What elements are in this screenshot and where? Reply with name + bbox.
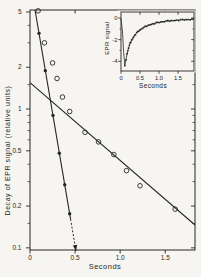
inset-data-square: [162, 21, 163, 22]
inset-data-square: [145, 25, 147, 27]
figure-scan: 5210.50.20.100.51.01.50-2-400.51.01.5 Se…: [0, 0, 201, 277]
inset-y-tick-label: -4: [112, 58, 118, 64]
inset-x-tick-label: 1.0: [155, 75, 163, 81]
inset-x-tick-label: 1.5: [174, 75, 182, 81]
inset-data-square: [132, 38, 133, 39]
inset-data-square: [170, 20, 172, 22]
x-tick-label: 0.5: [71, 254, 80, 261]
inset-x-axis-label: Seconds: [122, 82, 184, 89]
filled-circle-point: [68, 212, 71, 215]
inset-data-square: [178, 20, 180, 22]
inset-data-square: [160, 21, 162, 23]
filled-circle-point: [44, 69, 47, 72]
inset-data-square: [159, 22, 160, 23]
inset-data-square: [142, 28, 144, 30]
inset-data-square: [135, 34, 137, 36]
slow-decay-fit: [30, 83, 195, 225]
inset-data-square: [146, 26, 147, 27]
inset-x-tick-label: 0: [119, 75, 122, 81]
inset-data-square: [186, 19, 188, 21]
inset-data-square: [174, 20, 176, 22]
filled-circle-point: [63, 183, 66, 186]
inset-y-axis-label: EPR signal: [104, 8, 110, 68]
inset-data-square: [128, 47, 130, 49]
y-tick-label: 0.1: [12, 244, 21, 251]
inset-data-square: [138, 31, 139, 32]
inset-data-square: [139, 29, 141, 31]
inset-x-tick-label: 0.5: [136, 75, 144, 81]
inset-data-square: [164, 21, 166, 23]
inset-frame: [121, 12, 194, 71]
inset-data-square: [169, 21, 170, 22]
inset-data-square: [131, 39, 133, 41]
filled-circle-point: [51, 114, 54, 117]
open-circle-point: [67, 109, 72, 114]
inset-data-square: [152, 23, 153, 24]
open-circle-point: [42, 41, 47, 46]
inset-data-square: [133, 36, 135, 38]
open-circle-point: [36, 9, 41, 14]
x-tick-label: 1.5: [161, 254, 170, 261]
y-tick-label: 0.2: [12, 202, 21, 209]
inset-data-square: [141, 28, 142, 29]
inset-data-square: [127, 50, 128, 51]
inset-data-square: [167, 20, 169, 22]
inset-data-square: [148, 24, 150, 26]
inset-data-square: [143, 26, 144, 27]
inset-data-square: [182, 19, 184, 21]
filled-circle-point: [58, 152, 61, 155]
filled-circle-point: [37, 32, 40, 35]
main-y-axis-label: Decay of EPR signal (relative units): [4, 55, 11, 247]
inset-data-square: [191, 18, 192, 19]
x-tick-label: 0: [28, 254, 32, 261]
inset-data-square: [149, 24, 150, 25]
inset-data-square: [124, 65, 126, 67]
inset-data-square: [176, 19, 177, 20]
inset-data-square: [188, 19, 189, 20]
open-circle-point: [138, 183, 143, 188]
inset-data-square: [129, 45, 130, 46]
open-circle-point: [50, 61, 55, 66]
inset-data-square: [126, 53, 128, 55]
inset-data-square: [184, 19, 185, 20]
open-circle-point: [60, 95, 65, 100]
inset-y-tick-label: -2: [112, 37, 117, 43]
inset-data-square: [154, 23, 156, 25]
inset-data-square: [165, 20, 166, 21]
chart-canvas: 5210.50.20.100.51.01.50-2-400.51.01.5: [0, 0, 201, 277]
y-tick-label: 1: [18, 105, 22, 112]
open-circle-point: [124, 168, 129, 173]
inset-y-tick-label: 0: [114, 15, 117, 21]
inset-data-square: [192, 18, 194, 20]
inset-data-square: [125, 59, 127, 61]
inset-data-square: [130, 42, 131, 43]
main-x-axis-label: Seconds: [55, 262, 155, 271]
inset-data-square: [189, 19, 191, 21]
inset-data-square: [180, 19, 181, 20]
y-tick-label: 0.5: [12, 147, 21, 154]
inset-data-square: [155, 22, 156, 23]
open-circle-point: [55, 76, 60, 81]
inset-data-square: [157, 21, 159, 23]
x-tick-label: 1.0: [116, 254, 125, 261]
inset-data-square: [172, 20, 173, 21]
inset-data-square: [151, 24, 153, 26]
y-tick-label: 2: [18, 63, 22, 70]
y-tick-label: 5: [18, 8, 22, 15]
